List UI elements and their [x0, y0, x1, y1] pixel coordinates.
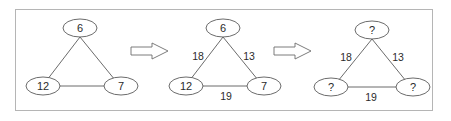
figure-border — [15, 9, 433, 111]
figure-container: 6 12 7 — [0, 0, 451, 121]
